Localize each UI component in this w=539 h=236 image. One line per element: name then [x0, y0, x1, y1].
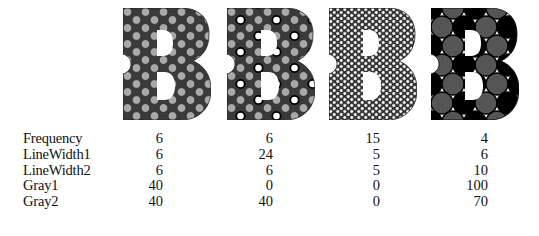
row-label: LineWidth1 [23, 147, 90, 163]
cell-value: 6 [438, 147, 488, 163]
cell-value: 40 [113, 178, 163, 194]
letter-b-pattern-2 [227, 8, 315, 120]
row-label: Gray2 [23, 194, 58, 210]
cell-value: 6 [113, 131, 163, 147]
cell-value: 6 [113, 147, 163, 163]
cell-value: 0 [330, 178, 380, 194]
cell-value: 4 [438, 131, 488, 147]
table-row-linewidth2: LineWidth2 6 6 5 10 [0, 163, 539, 179]
cell-value: 40 [113, 194, 163, 210]
table-row-gray1: Gray1 40 0 0 100 [0, 178, 539, 194]
cell-value: 0 [330, 194, 380, 210]
cell-value: 6 [223, 131, 273, 147]
row-label: Frequency [23, 131, 82, 147]
cell-value: 24 [223, 147, 273, 163]
figure-b-3 [329, 8, 417, 120]
cell-value: 10 [438, 163, 488, 179]
row-label: LineWidth2 [23, 163, 90, 179]
letter-b-pattern-4 [431, 8, 519, 120]
letter-b-pattern-3 [329, 8, 417, 120]
cell-value: 5 [330, 163, 380, 179]
cell-value: 6 [113, 163, 163, 179]
pattern-figures [0, 0, 539, 125]
cell-value: 0 [223, 178, 273, 194]
cell-value: 6 [223, 163, 273, 179]
letter-b-pattern-1 [123, 8, 211, 120]
figure-b-1 [123, 8, 211, 120]
cell-value: 40 [223, 194, 273, 210]
cell-value: 5 [330, 147, 380, 163]
table-row-gray2: Gray2 40 40 0 70 [0, 194, 539, 210]
parameter-table: Frequency 6 6 15 4 LineWidth1 6 24 5 6 L… [0, 131, 539, 210]
table-row-frequency: Frequency 6 6 15 4 [0, 131, 539, 147]
cell-value: 100 [438, 178, 488, 194]
figure-b-4 [431, 8, 519, 120]
row-label: Gray1 [23, 178, 58, 194]
cell-value: 70 [438, 194, 488, 210]
table-row-linewidth1: LineWidth1 6 24 5 6 [0, 147, 539, 163]
figure-b-2 [227, 8, 315, 120]
cell-value: 15 [330, 131, 380, 147]
